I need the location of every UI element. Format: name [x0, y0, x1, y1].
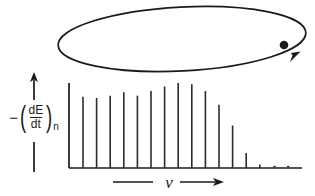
y-axis-label-inner: − ( dE dt ) n: [9, 104, 59, 130]
figure-container: − ( dE dt ) n ν: [0, 0, 315, 196]
x-axis-label-nu: ν: [161, 174, 177, 191]
figure-canvas: [0, 0, 315, 196]
x-axis-label: ν: [104, 172, 234, 192]
spectrum-bars-group: [83, 83, 289, 168]
y-label-minus-sign: −: [9, 110, 17, 125]
orbit-direction-arrow-icon: [290, 52, 301, 63]
y-label-denominator: dt: [30, 117, 42, 131]
y-label-fraction: dE dt: [28, 104, 45, 130]
y-label-close-paren: ): [46, 106, 52, 128]
y-label-subscript: n: [53, 122, 59, 132]
y-axis-label: − ( dE dt ) n: [2, 104, 66, 130]
y-label-numerator: dE: [28, 104, 45, 117]
axes-group: [30, 72, 302, 172]
electron-dot: [280, 41, 289, 50]
orbit-group: [56, 1, 307, 78]
orbit-ellipse: [56, 1, 307, 78]
y-label-open-paren: (: [19, 106, 25, 128]
